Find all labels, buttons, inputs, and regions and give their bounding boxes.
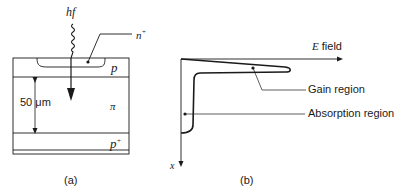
e-field-label: E field xyxy=(312,41,342,52)
diagram-canvas xyxy=(0,0,405,195)
p-plus-layer-label: p+ xyxy=(110,137,121,150)
caption-a: (a) xyxy=(64,175,77,186)
x-axis-label: x xyxy=(170,161,174,171)
device-cross-section xyxy=(13,24,132,154)
p-layer-label: p xyxy=(111,61,118,74)
photon-energy-label: hf xyxy=(66,6,75,18)
absorption-region-label: Absorption region xyxy=(308,108,394,119)
photon-wave-icon xyxy=(71,24,75,58)
arrow-down-icon xyxy=(67,88,75,101)
gain-region-label: Gain region xyxy=(308,84,365,95)
n-plus-dot xyxy=(86,60,89,63)
pi-layer-label: π xyxy=(110,101,116,112)
thickness-label: 50 μm xyxy=(20,97,51,108)
n-plus-label: n+ xyxy=(136,29,146,41)
field-curve xyxy=(181,59,290,133)
caption-b: (b) xyxy=(240,175,253,186)
